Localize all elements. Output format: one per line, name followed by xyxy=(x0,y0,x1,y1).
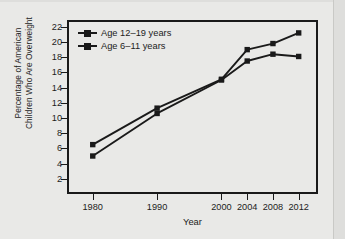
x-tick-label: 2008 xyxy=(263,202,283,212)
x-tick-mark xyxy=(93,194,94,200)
x-tick-label: 1980 xyxy=(83,202,103,212)
data-point-marker xyxy=(270,41,275,46)
y-tick-label: 6 xyxy=(38,143,62,153)
data-point-marker xyxy=(154,105,159,110)
y-tick-label: 18 xyxy=(38,52,62,62)
page-margin-right xyxy=(334,0,345,239)
x-tick-label: 2004 xyxy=(237,202,257,212)
series-2 xyxy=(90,51,301,158)
x-tick-label: 2000 xyxy=(211,202,231,212)
y-tick-label: 22 xyxy=(38,22,62,32)
y-tick-label: 4 xyxy=(38,159,62,169)
legend-marker-icon xyxy=(78,41,97,50)
legend-marker-icon xyxy=(78,28,97,37)
chart-legend: Age 12–19 yearsAge 6–11 years xyxy=(78,26,208,52)
x-tick-mark xyxy=(299,194,300,200)
legend-item-2: Age 6–11 years xyxy=(78,39,208,52)
data-point-marker xyxy=(296,30,301,35)
data-point-marker xyxy=(245,47,250,52)
y-axis-title-line-2: Children Who Are Overweight xyxy=(24,0,35,163)
x-tick-mark xyxy=(247,194,248,200)
x-tick-mark xyxy=(221,194,222,200)
data-point-marker xyxy=(90,142,95,147)
data-point-marker xyxy=(154,111,159,116)
legend-item-1: Age 12–19 years xyxy=(78,26,208,39)
legend-label: Age 6–11 years xyxy=(101,41,165,51)
y-tick-label: 8 xyxy=(38,128,62,138)
y-tick-label: 16 xyxy=(38,67,62,77)
chart-figure: Percentage of American Children Who Are … xyxy=(0,0,345,239)
data-point-marker xyxy=(219,77,224,82)
series-line xyxy=(93,54,299,156)
x-tick-label: 2012 xyxy=(288,202,308,212)
x-axis-title: Year xyxy=(67,216,318,227)
data-point-marker xyxy=(270,51,275,56)
x-tick-label: 1990 xyxy=(147,202,167,212)
page-edge-top xyxy=(0,0,345,2)
data-point-marker xyxy=(90,153,95,158)
x-tick-mark xyxy=(157,194,158,200)
y-tick-label: 10 xyxy=(38,113,62,123)
y-tick-label: 2 xyxy=(38,174,62,184)
data-point-marker xyxy=(245,58,250,63)
y-tick-label: 12 xyxy=(38,98,62,108)
y-axis-title-line-1: Percentage of American xyxy=(13,0,24,163)
x-tick-mark xyxy=(273,194,274,200)
legend-label: Age 12–19 years xyxy=(101,28,171,38)
data-point-marker xyxy=(296,54,301,59)
y-tick-label: 14 xyxy=(38,83,62,93)
y-tick-label: 20 xyxy=(38,37,62,47)
